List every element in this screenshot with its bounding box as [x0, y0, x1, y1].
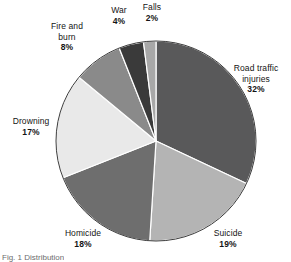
slice-label-road-traffic-injuries: Road traffic injuries 32%	[224, 63, 288, 95]
slice-label-value: 17%	[2, 127, 60, 138]
slice-label-name: War	[105, 5, 133, 16]
pie-chart-figure: Road traffic injuries 32% Suicide 19% Ho…	[0, 0, 291, 262]
slice-label-value: 18%	[52, 239, 114, 250]
slice-label-falls: Falls 2%	[137, 2, 167, 23]
slice-label-name-line2: burn	[38, 32, 96, 43]
slice-label-suicide: Suicide 19%	[200, 228, 256, 249]
slice-label-drowning: Drowning 17%	[2, 116, 60, 137]
slice-label-name: Falls	[137, 2, 167, 13]
slice-label-war: War 4%	[105, 5, 133, 26]
slice-label-value: 32%	[224, 84, 288, 95]
slice-label-homicide: Homicide 18%	[52, 228, 114, 249]
slice-label-fire-and-burn: Fire and burn 8%	[38, 21, 96, 53]
figure-caption: Fig. 1 Distribution	[2, 253, 64, 262]
slice-label-name: Drowning	[2, 116, 60, 127]
slice-label-value: 8%	[38, 42, 96, 53]
slice-label-value: 2%	[137, 13, 167, 24]
slice-label-value: 4%	[105, 16, 133, 27]
slice-label-name: Road traffic	[224, 63, 288, 74]
slice-label-value: 19%	[200, 239, 256, 250]
slice-label-name: Suicide	[200, 228, 256, 239]
slice-label-name-line2: injuries	[224, 74, 288, 85]
slice-label-name: Fire and	[38, 21, 96, 32]
slice-label-name: Homicide	[52, 228, 114, 239]
